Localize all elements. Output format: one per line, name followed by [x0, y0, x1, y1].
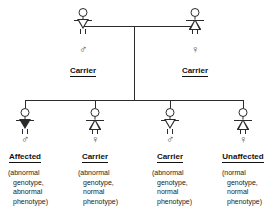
sibling-drop-1 [25, 100, 26, 108]
sibship-line [25, 100, 244, 101]
child-3-genotype-block: (abnormal genotype, normal phenotype) [152, 168, 226, 206]
geno-line: phenotype) [152, 197, 226, 207]
marriage-line [83, 26, 195, 27]
head-icon [21, 108, 30, 117]
mother-figure [182, 8, 208, 34]
child-3-sex-symbol: ♂ [150, 134, 190, 145]
geno-line: (abnormal [78, 168, 152, 178]
child-4-status-text: Unaffected [222, 152, 263, 163]
geno-line: (abnormal [8, 168, 82, 178]
skirt-hem [89, 129, 101, 130]
geno-line: genotype, [8, 178, 82, 188]
skirt-hem [189, 29, 201, 30]
sibling-drop-4 [243, 100, 244, 108]
geno-line: phenotype) [78, 197, 152, 207]
skirt-hem [237, 129, 249, 130]
father-status-text: Carrier [70, 66, 96, 77]
child-2-sex-symbol: ♀ [75, 134, 115, 145]
father-figure [70, 8, 96, 34]
mother-status-label: Carrier [150, 66, 240, 75]
descent-line [134, 26, 135, 100]
female-body-fill [239, 121, 247, 129]
child-1-genotype-block: (abnormal genotype, abnormal phenotype) [8, 168, 82, 206]
left-leg [192, 29, 193, 34]
pedigree-diagram: ♂ ♀ Carrier Carrier [0, 0, 275, 212]
female-body-fill [91, 121, 99, 129]
female-body-fill [191, 21, 199, 29]
child-1-figure [12, 108, 38, 134]
child-3-status-text: Carrier [157, 152, 183, 163]
child-3-figure [157, 108, 183, 134]
mother-status-text: Carrier [182, 66, 208, 77]
child-2-status-text: Carrier [82, 152, 108, 163]
child-2-figure [82, 108, 108, 134]
male-body-fill [21, 120, 29, 127]
head-icon [191, 8, 200, 17]
child-4-sex-symbol: ♀ [223, 134, 263, 145]
head-icon [91, 108, 100, 117]
child-1-sex-symbol: ♂ [5, 134, 45, 145]
geno-line: abnormal [8, 187, 82, 197]
mother-sex-symbol: ♀ [175, 44, 215, 55]
head-icon [166, 108, 175, 117]
child-4-genotype-block: (normal genotype, normal phenotype) [222, 168, 275, 206]
child-2-genotype-block: (abnormal genotype, normal phenotype) [78, 168, 152, 206]
father-status-label: Carrier [38, 66, 128, 75]
male-body-fill [166, 120, 174, 127]
geno-line: phenotype) [222, 197, 275, 207]
sibling-drop-2 [95, 100, 96, 108]
child-1-status-text: Affected [9, 152, 41, 163]
geno-line: normal [78, 187, 152, 197]
sibling-drop-3 [170, 100, 171, 108]
geno-line: normal [152, 187, 226, 197]
geno-line: genotype, [78, 178, 152, 188]
geno-line: phenotype) [8, 197, 82, 207]
father-sex-symbol: ♂ [63, 44, 103, 55]
child-4-status-label: Unaffected [198, 152, 275, 161]
geno-line: (normal [222, 168, 275, 178]
child-4-figure [230, 108, 256, 134]
geno-line: normal [222, 187, 275, 197]
geno-line: (abnormal [152, 168, 226, 178]
right-leg [85, 29, 86, 34]
male-body-fill [79, 20, 87, 27]
right-leg [197, 29, 198, 34]
geno-line: genotype, [152, 178, 226, 188]
head-icon [239, 108, 248, 117]
geno-line: genotype, [222, 178, 275, 188]
head-icon [79, 8, 88, 17]
left-leg [80, 29, 81, 34]
